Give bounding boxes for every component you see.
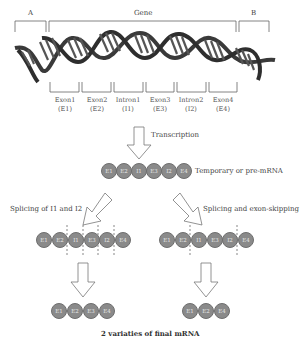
bead: E1 [101,163,117,179]
bead: E2 [52,232,68,248]
bead: I2 [161,163,177,179]
bead: E4 [176,163,192,179]
bead: I2 [99,232,115,248]
bead: E2 [116,163,132,179]
pre-mrna-label: Temporary or pre-mRNA [195,167,283,175]
right-branch-label: Splicing and exon-skipping [203,205,299,213]
bead: E3 [207,232,223,248]
bead: I2 [222,232,238,248]
bead: E2 [198,303,214,319]
right-splice-arrow-icon [173,193,202,225]
bead: E3 [84,232,100,248]
bead: I1 [191,232,207,248]
left-final-arrow-icon [71,263,95,297]
bead: E1 [51,303,67,319]
bead: I1 [68,232,84,248]
bead: E4 [99,303,115,319]
bead: E3 [146,163,162,179]
footer-label: 2 variaties of final mRNA [101,329,200,338]
bead: E2 [67,303,83,319]
bead: E4 [238,232,254,248]
bead: E3 [83,303,99,319]
bead: E1 [182,303,198,319]
left-splice-arrow-icon [83,193,112,225]
left-branch-label: Splicing of I1 and I2 [10,205,82,213]
right-final-arrow-icon [194,263,218,297]
bead: E4 [214,303,230,319]
bead: I1 [131,163,147,179]
bead: E1 [36,232,52,248]
transcription-arrow-icon [127,127,151,159]
bead: E2 [175,232,191,248]
bead: E1 [159,232,175,248]
transcription-label: Transcription [151,131,199,139]
bead: E4 [115,232,131,248]
